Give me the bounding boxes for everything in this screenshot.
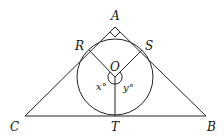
label-s: S [145, 39, 153, 53]
label-r: R [74, 39, 84, 53]
label-c: C [10, 120, 19, 134]
label-t: T [111, 120, 120, 134]
label-b: B [206, 120, 216, 134]
geometry-diagram: A R S O x° y° C T B [0, 0, 224, 136]
label-o: O [110, 60, 120, 74]
label-angle-y: y° [122, 82, 134, 93]
right-angle-marker [110, 32, 120, 37]
label-a: A [110, 9, 120, 23]
label-angle-x: x° [96, 81, 107, 92]
